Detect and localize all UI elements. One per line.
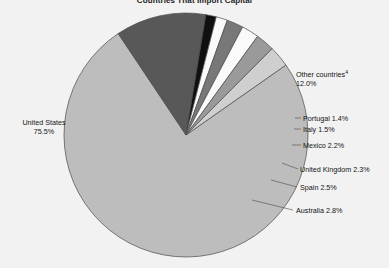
- slice-label-united-states-value: 75.5%: [8, 127, 80, 136]
- footnote-marker-other-countries: 4: [345, 69, 348, 75]
- slice-label-united-kingdom: United Kingdom 2.3%: [300, 165, 370, 174]
- slice-label-italy: Italy 1.5%: [303, 125, 335, 134]
- slice-label-other-countries-text: Other countries: [296, 70, 345, 79]
- slice-label-australia: Australia 2.8%: [296, 206, 342, 215]
- slice-label-other-countries-name: Other countries4: [296, 70, 348, 79]
- slice-label-portugal: Portugal 1.4%: [303, 114, 348, 123]
- slice-label-united-states-name: United States: [8, 118, 80, 127]
- slice-label-spain: Spain 2.5%: [300, 183, 337, 192]
- pie-slices-group: [64, 13, 308, 257]
- slice-label-united-states: United States 75.5%: [8, 118, 80, 136]
- pie-chart-figure: Countries That Import Capital United Sta…: [0, 0, 389, 268]
- slice-label-other-countries-value: 12.0%: [296, 79, 348, 88]
- slice-label-mexico: Mexico 2.2%: [303, 141, 344, 150]
- slice-label-other-countries: Other countries4 12.0%: [296, 70, 348, 88]
